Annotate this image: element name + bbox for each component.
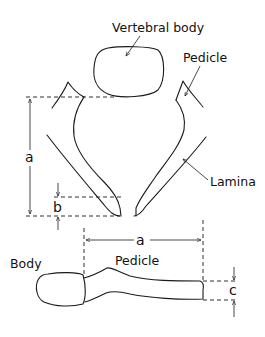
left-pedicle bbox=[52, 82, 84, 108]
side-pedicle-label: Pedicle bbox=[115, 253, 160, 268]
side-view: a Body Pedicle c bbox=[10, 220, 238, 317]
dim-a-horizontal-label: a bbox=[136, 232, 145, 248]
right-pedicle bbox=[176, 81, 203, 107]
dim-a-vertical-label: a bbox=[25, 149, 34, 165]
right-lamina bbox=[134, 137, 206, 216]
vertebral-body-outline bbox=[94, 47, 164, 97]
vertebral-body-label: Vertebral body bbox=[112, 20, 205, 35]
top-view: Vertebral body Pedicle Lamina a b bbox=[24, 20, 256, 230]
vertebral-body-pointer bbox=[126, 36, 140, 56]
side-body-outline bbox=[36, 273, 85, 306]
vertebra-diagram: Vertebral body Pedicle Lamina a b bbox=[0, 0, 265, 337]
pedicle-label: Pedicle bbox=[183, 50, 228, 65]
lamina-label: Lamina bbox=[210, 174, 256, 189]
lamina-pointer bbox=[183, 159, 208, 180]
body-label: Body bbox=[10, 256, 42, 271]
side-pedicle-outline bbox=[84, 268, 203, 302]
left-canal-wall bbox=[74, 97, 121, 216]
right-canal-wall bbox=[136, 100, 185, 216]
pedicle-pointer bbox=[185, 66, 200, 96]
dim-c-label: c bbox=[229, 282, 237, 298]
dim-b-label: b bbox=[53, 199, 62, 215]
